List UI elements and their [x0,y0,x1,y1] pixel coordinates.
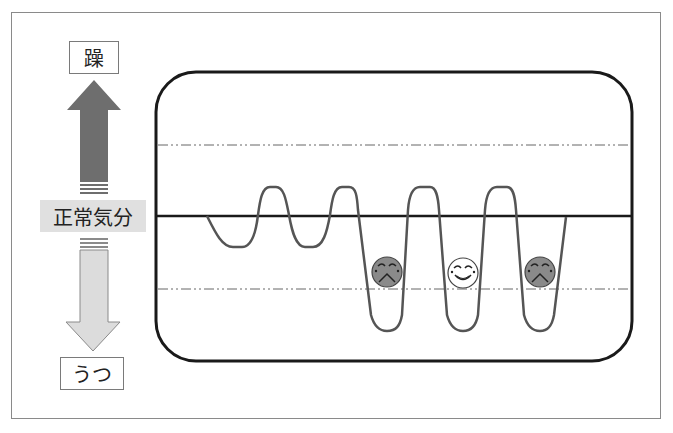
arrow-up-icon [67,80,121,194]
mood-diagram [0,0,673,433]
arrow-down-icon [66,238,120,351]
sad-face-icon [525,257,555,287]
happy-face-icon [448,258,478,288]
sad-face-icon [372,257,402,287]
